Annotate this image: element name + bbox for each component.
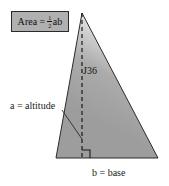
formula-equals-sign: =	[39, 17, 45, 27]
fraction-denominator: 2	[47, 21, 52, 29]
triangle-shape	[56, 13, 158, 158]
figure-reference-label: J36	[83, 66, 97, 76]
formula-term-ab: ab	[53, 17, 63, 27]
formula-fraction-one-half: 1 2	[47, 15, 52, 29]
area-formula-expression: Area = 1 2 ab	[18, 15, 63, 29]
altitude-label: a = altitude	[10, 101, 55, 111]
formula-term-area: Area	[18, 17, 38, 27]
triangle-area-figure: Area = 1 2 ab J36 a = altitude b = base	[0, 0, 169, 186]
base-label: b = base	[92, 168, 125, 178]
area-formula-box: Area = 1 2 ab	[11, 11, 69, 32]
